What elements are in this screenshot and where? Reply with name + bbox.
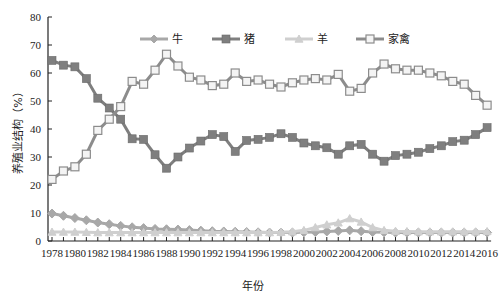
legend-item: 猪 <box>212 33 255 46</box>
square-marker <box>254 135 262 143</box>
open-square-marker <box>277 83 285 91</box>
square-marker <box>380 157 388 165</box>
square-marker <box>48 56 56 64</box>
x-tick-label: 2012 <box>430 247 452 259</box>
square-marker <box>437 142 445 150</box>
y-axis: 01020304050607080 <box>30 11 52 247</box>
open-square-marker <box>483 101 491 109</box>
x-axis: 1978198019821984198619881990199219941996… <box>41 237 499 259</box>
y-tick-label: 10 <box>30 207 42 219</box>
open-square-marker <box>311 75 319 83</box>
open-square-marker <box>185 73 193 81</box>
square-marker <box>323 144 331 152</box>
square-marker <box>460 136 468 144</box>
open-square-marker <box>128 77 136 85</box>
diamond-marker <box>150 35 158 43</box>
square-marker <box>185 144 193 152</box>
open-square-marker <box>82 150 90 158</box>
square-marker <box>222 35 230 43</box>
series-3 <box>48 50 491 183</box>
open-square-marker <box>231 69 239 77</box>
legend-label: 家禽 <box>388 32 410 46</box>
square-marker <box>346 142 354 150</box>
square-marker <box>426 145 434 153</box>
open-square-marker <box>449 77 457 85</box>
x-tick-label: 1990 <box>178 247 201 259</box>
y-tick-label: 60 <box>30 67 42 79</box>
y-tick-label: 0 <box>36 235 42 247</box>
open-square-marker <box>48 175 56 183</box>
x-tick-label: 1980 <box>64 247 87 259</box>
x-tick-label: 2010 <box>407 247 430 259</box>
open-square-marker <box>437 72 445 80</box>
open-square-marker <box>334 70 342 78</box>
open-square-marker <box>472 91 480 99</box>
y-tick-label: 30 <box>30 151 42 163</box>
square-marker <box>472 131 480 139</box>
diamond-marker <box>357 227 366 236</box>
square-marker <box>82 75 90 83</box>
open-square-marker <box>288 79 296 87</box>
open-square-marker <box>220 80 228 88</box>
open-square-marker <box>59 167 67 175</box>
x-tick-label: 2002 <box>316 247 338 259</box>
square-marker <box>59 61 67 69</box>
y-axis-title: 养殖业结构（%） <box>11 86 25 173</box>
square-marker <box>94 94 102 102</box>
open-square-marker <box>94 126 102 134</box>
square-marker <box>243 136 251 144</box>
square-marker <box>266 133 274 141</box>
square-marker <box>369 150 377 158</box>
open-square-marker <box>197 76 205 84</box>
open-square-marker <box>254 76 262 84</box>
x-tick-label: 1986 <box>133 247 156 259</box>
open-square-marker <box>300 76 308 84</box>
open-square-marker <box>369 69 377 77</box>
y-tick-label: 80 <box>30 11 42 23</box>
open-square-marker <box>208 82 216 90</box>
square-marker <box>71 63 79 71</box>
x-tick-label: 1988 <box>156 247 179 259</box>
square-marker <box>288 133 296 141</box>
legend-item: 家禽 <box>356 32 410 46</box>
x-tick-label: 1998 <box>270 247 293 259</box>
square-marker <box>105 104 113 112</box>
x-tick-label: 2004 <box>339 247 362 259</box>
y-tick-label: 20 <box>30 179 42 191</box>
open-square-marker <box>174 62 182 70</box>
diamond-marker <box>70 214 79 223</box>
open-square-marker <box>366 35 374 43</box>
y-tick-label: 50 <box>30 95 42 107</box>
square-marker <box>357 140 365 148</box>
x-tick-label: 2014 <box>453 247 476 259</box>
open-square-marker <box>266 80 274 88</box>
square-marker <box>449 138 457 146</box>
square-marker <box>163 164 171 172</box>
x-axis-title: 年份 <box>242 279 264 293</box>
square-marker <box>231 147 239 155</box>
legend-label: 牛 <box>172 32 183 46</box>
legend-item: 牛 <box>140 32 183 46</box>
x-tick-label: 1982 <box>87 247 109 259</box>
square-marker <box>311 142 319 150</box>
diamond-marker <box>345 226 354 235</box>
diamond-marker <box>334 226 343 235</box>
square-marker <box>151 151 159 159</box>
square-marker <box>334 150 342 158</box>
open-square-marker <box>105 115 113 123</box>
open-square-marker <box>460 80 468 88</box>
square-marker <box>392 152 400 160</box>
line-chart: 01020304050607080 1978198019821984198619… <box>0 0 503 299</box>
square-marker <box>414 148 422 156</box>
square-marker <box>197 137 205 145</box>
diamond-marker <box>48 209 57 218</box>
x-tick-label: 2008 <box>385 247 408 259</box>
square-marker <box>140 135 148 143</box>
square-marker <box>174 153 182 161</box>
square-marker <box>483 124 491 132</box>
x-tick-label: 2016 <box>476 247 499 259</box>
y-tick-label: 40 <box>30 123 42 135</box>
y-tick-label: 70 <box>30 39 42 51</box>
square-marker <box>128 135 136 143</box>
diamond-marker <box>93 218 102 227</box>
